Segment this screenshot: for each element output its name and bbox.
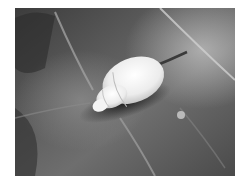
snail-photo xyxy=(15,8,235,176)
